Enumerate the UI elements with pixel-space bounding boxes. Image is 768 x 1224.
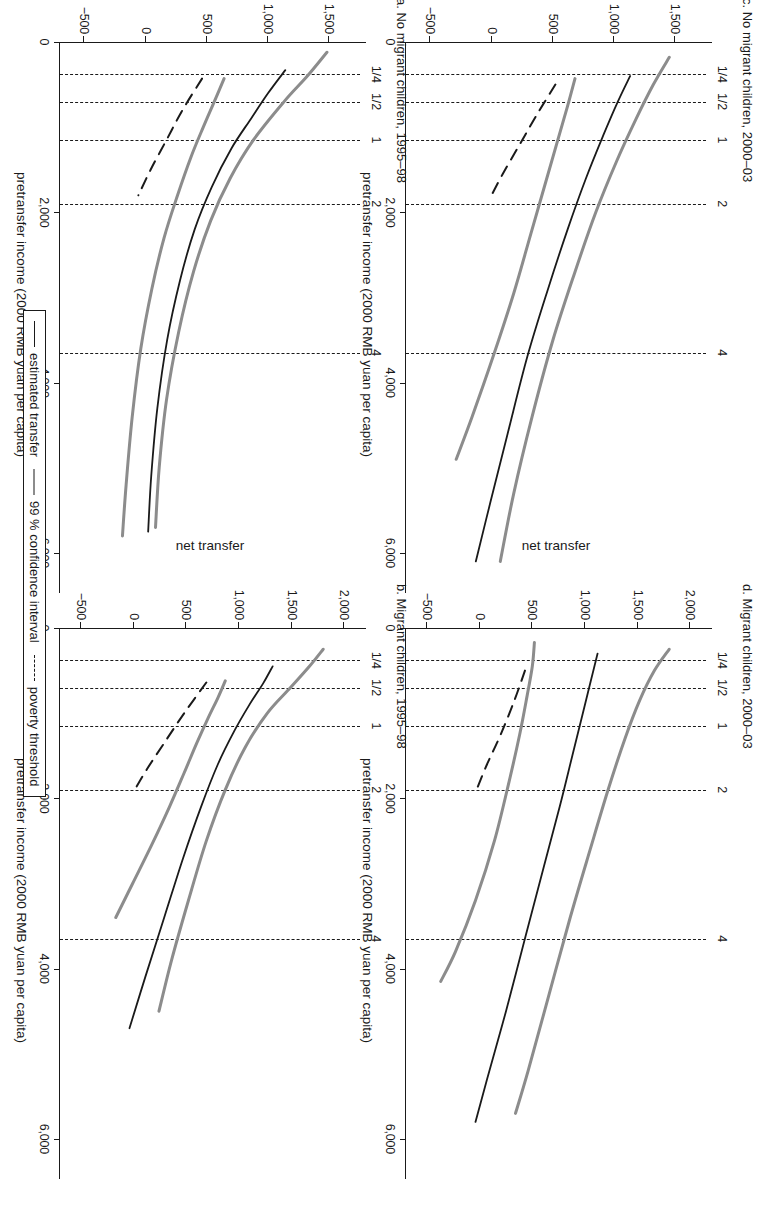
solid-line-icon bbox=[34, 321, 35, 347]
panel-d-y-ticklabel-0: 2,000 bbox=[684, 576, 697, 620]
panel-d-y-ticklabel-2: 1,000 bbox=[579, 576, 592, 620]
panel-d-y-ticklabel-1: 1,500 bbox=[631, 576, 644, 620]
grey-line-icon bbox=[34, 469, 36, 495]
panel-d-x-axis bbox=[405, 628, 406, 1179]
panel-d-curves bbox=[0, 0, 768, 1224]
panel-d-x-ticklabel-1: 2,000 bbox=[384, 783, 397, 813]
panel-d-x-ticklabel-3: 6,000 bbox=[384, 1124, 397, 1154]
panel-d-poverty-label-0: 1/4 bbox=[716, 652, 729, 669]
panel-d-y-ticklabel-4: 0 bbox=[473, 576, 486, 620]
series-d-2 bbox=[441, 642, 535, 981]
panel-d-y-tick bbox=[426, 622, 427, 628]
panel-d-y-tick bbox=[689, 622, 690, 628]
legend-item-2: poverty threshold bbox=[27, 655, 42, 787]
legend-item-0: estimated transfer bbox=[27, 321, 42, 457]
figure-canvas: 02,0004,0006,0001,5001,0005000−5001/41/2… bbox=[0, 0, 768, 1224]
panel-d-y-tick bbox=[479, 622, 480, 628]
legend-label-2: poverty threshold bbox=[27, 687, 42, 787]
series-d-3 bbox=[477, 671, 525, 790]
dashed-line-icon bbox=[34, 655, 35, 681]
panel-d-poverty-label-2: 1 bbox=[716, 722, 729, 729]
legend-item-1: 99 % confidence interval bbox=[27, 469, 42, 643]
panel-d-x-axis-title: pretransfer income (2000 RMB yuan per ca… bbox=[361, 758, 375, 1043]
panel-d-y-axis-title: net transfer bbox=[522, 539, 590, 553]
panel-d-poverty-label-4: 4 bbox=[716, 935, 729, 942]
legend-label-0: estimated transfer bbox=[27, 353, 42, 457]
panel-d-y-tick bbox=[584, 622, 585, 628]
chart-panel-d: 02,0004,0006,0002,0001,5001,0005000−5001… bbox=[0, 0, 768, 1224]
panel-d-x-tick bbox=[400, 798, 406, 799]
panel-d-y-ticklabel-5: −500 bbox=[421, 576, 434, 620]
rotated-figure-stage: 02,0004,0006,0001,5001,0005000−5001/41/2… bbox=[0, 0, 768, 1224]
panel-d-x-ticklabel-0: 0 bbox=[384, 625, 397, 632]
panel-d-x-tick bbox=[400, 969, 406, 970]
panel-d-y-tick bbox=[637, 622, 638, 628]
panel-d-x-tick bbox=[400, 1139, 406, 1140]
panel-d-x-tick bbox=[400, 628, 406, 629]
chart-legend: estimated transfer99 % confidence interv… bbox=[23, 310, 46, 797]
panel-d-title: d. Migrant children, 2000–03 bbox=[741, 584, 754, 749]
panel-d-y-tick bbox=[531, 622, 532, 628]
panel-d-poverty-label-3: 2 bbox=[716, 786, 729, 793]
panel-d-y-ticklabel-3: 500 bbox=[526, 576, 539, 620]
panel-d-y-axis bbox=[406, 628, 712, 629]
legend-label-1: 99 % confidence interval bbox=[27, 501, 42, 643]
series-d-0 bbox=[515, 649, 669, 1113]
panel-d-poverty-label-1: 1/2 bbox=[716, 679, 729, 696]
panel-d-x-ticklabel-2: 4,000 bbox=[384, 953, 397, 983]
